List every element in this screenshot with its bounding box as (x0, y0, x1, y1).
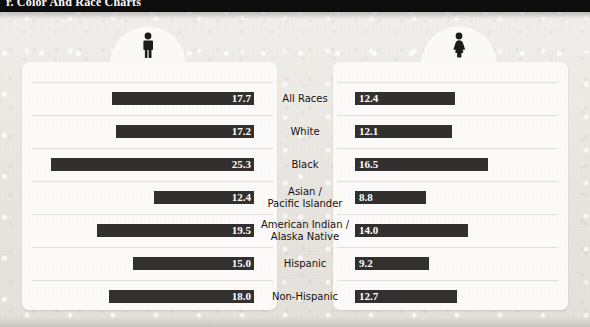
figure-stage: MALE FEMALE 17.7 17.2 25.3 12.4 19.5 15.… (0, 0, 590, 327)
category-text-2: Pacific Islander (268, 198, 343, 209)
male-figure-icon (140, 32, 156, 58)
category-label: American Indian /Alaska Native (251, 214, 359, 247)
table-row: 17.7 (22, 82, 277, 115)
category-label: Non-Hispanic (251, 280, 359, 313)
table-row: 12.4 (22, 181, 277, 214)
male-bar: 12.4 (154, 191, 254, 204)
row-separator (32, 148, 273, 149)
male-bar: 19.5 (97, 224, 254, 237)
category-label: White (251, 115, 359, 148)
table-row: 16.5 (333, 148, 568, 181)
row-separator (32, 181, 273, 182)
category-label: All Races (251, 82, 359, 115)
table-row: 12.7 (333, 280, 568, 313)
category-text: White (290, 126, 319, 137)
row-separator (337, 148, 558, 149)
table-row: 12.4 (333, 82, 568, 115)
female-bar: 9.2 (355, 257, 429, 270)
female-chart-card: 12.4 12.1 16.5 8.8 14.0 9.2 12.7 (333, 62, 568, 310)
page-bottom-shadow (0, 317, 590, 327)
row-separator (32, 214, 273, 215)
category-text: All Races (282, 93, 327, 104)
category-labels: All Races White Black Asian /Pacific Isl… (277, 62, 333, 310)
category-text: Hispanic (284, 258, 327, 269)
female-bar: 12.1 (355, 125, 452, 138)
table-row: 9.2 (333, 247, 568, 280)
table-row: 14.0 (333, 214, 568, 247)
female-bar: 16.5 (355, 158, 488, 171)
table-row: 8.8 (333, 181, 568, 214)
female-bar: 8.8 (355, 191, 426, 204)
category-text: Black (291, 159, 318, 170)
male-chart-card: 17.7 17.2 25.3 12.4 19.5 15.0 18.0 (22, 62, 277, 310)
category-text: American Indian / (261, 219, 349, 230)
female-bar: 14.0 (355, 224, 468, 237)
row-separator (337, 181, 558, 182)
row-separator (337, 115, 558, 116)
table-row: 12.1 (333, 115, 568, 148)
female-bar: 12.7 (355, 290, 457, 303)
category-label: Black (251, 148, 359, 181)
male-bar: 25.3 (51, 158, 254, 171)
male-bar: 17.2 (116, 125, 254, 138)
male-bar: 17.7 (112, 92, 254, 105)
male-bar: 18.0 (109, 290, 254, 303)
table-row: 19.5 (22, 214, 277, 247)
category-text-2: Alaska Native (271, 231, 339, 242)
table-row: 18.0 (22, 280, 277, 313)
table-row: 17.2 (22, 115, 277, 148)
row-separator (32, 115, 273, 116)
female-figure-icon (451, 32, 468, 58)
row-separator (32, 280, 273, 281)
female-bar: 12.4 (355, 92, 455, 105)
row-separator (337, 280, 558, 281)
category-label: Asian /Pacific Islander (251, 181, 359, 214)
row-separator (337, 82, 558, 83)
row-separator (32, 82, 273, 83)
female-bar-rows: 12.4 12.1 16.5 8.8 14.0 9.2 12.7 (333, 62, 568, 310)
row-separator (337, 247, 558, 248)
row-separator (337, 214, 558, 215)
category-text: Asian / (288, 186, 322, 197)
category-label: Hispanic (251, 247, 359, 280)
row-separator (32, 247, 273, 248)
table-row: 25.3 (22, 148, 277, 181)
male-bar: 15.0 (133, 257, 254, 270)
male-bar-rows: 17.7 17.2 25.3 12.4 19.5 15.0 18.0 (22, 62, 277, 310)
table-row: 15.0 (22, 247, 277, 280)
category-text: Non-Hispanic (272, 291, 338, 302)
